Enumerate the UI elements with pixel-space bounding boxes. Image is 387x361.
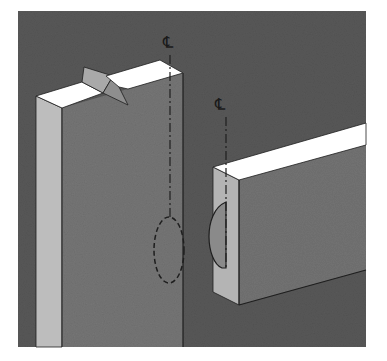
biscuit-joint-diagram: ℄ ℄ (0, 0, 387, 361)
rail-centerline-label: ℄ (214, 95, 226, 114)
diagram-stage: ℄ ℄ (0, 0, 387, 361)
post-side-face (36, 96, 62, 347)
post-centerline-label: ℄ (162, 33, 174, 52)
post (36, 60, 183, 347)
post-front-face (62, 73, 183, 347)
